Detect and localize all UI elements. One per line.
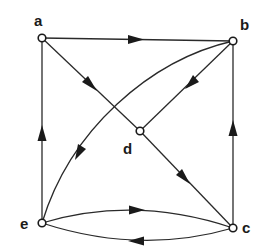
edge-c-to-e <box>42 223 233 240</box>
node-label-b: b <box>240 16 249 33</box>
node-d <box>136 127 144 135</box>
arrowhead-c-to-b <box>229 120 238 136</box>
node-a <box>38 34 46 42</box>
arrowhead-e-to-c <box>129 206 145 215</box>
edge-e-to-c <box>42 210 233 228</box>
node-label-d: d <box>123 140 132 157</box>
arrowhead-e-to-a <box>38 125 47 141</box>
node-label-c: c <box>242 219 250 236</box>
node-e <box>38 219 46 227</box>
node-label-a: a <box>34 12 43 29</box>
arrowhead-c-to-e <box>128 237 144 246</box>
node-b <box>229 37 237 45</box>
node-c <box>229 224 237 232</box>
node-label-e: e <box>20 215 28 232</box>
arrowhead-a-to-b <box>128 35 144 44</box>
directed-graph-diagram: a b d e c <box>0 0 263 252</box>
edge-b-to-d <box>140 41 233 131</box>
arrowhead-b-to-e <box>75 144 86 160</box>
arrowhead-b-to-d <box>185 75 199 89</box>
